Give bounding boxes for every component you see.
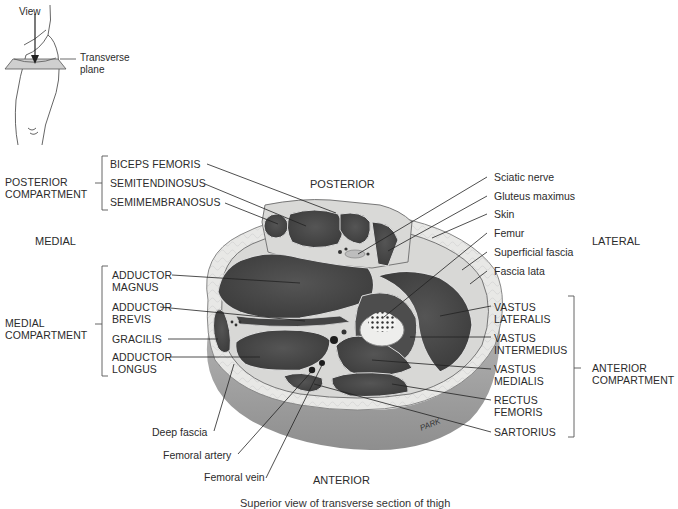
label-adductor-longus: ADDUCTOR LONGUS xyxy=(112,351,172,375)
orientation-anterior: ANTERIOR xyxy=(313,474,370,486)
label-adductor-brevis: ADDUCTOR BREVIS xyxy=(112,301,172,325)
adductor-longus-line2: LONGUS xyxy=(112,363,172,375)
label-rectus-femoris: RECTUS FEMORIS xyxy=(494,394,543,418)
figure-caption: Superior view of transverse section of t… xyxy=(240,497,450,509)
label-superficial-fascia: Superficial fascia xyxy=(494,246,573,258)
adductor-magnus-line2: MAGNUS xyxy=(112,281,172,293)
label-vastus-medialis: VASTUS MEDIALIS xyxy=(494,363,544,387)
vastus-medialis-line1: VASTUS xyxy=(494,363,544,375)
semimembranosus-muscle xyxy=(264,214,288,238)
vastus-intermedius-line2: INTERMEDIUS xyxy=(494,344,567,356)
adductor-magnus-line1: ADDUCTOR xyxy=(112,269,172,281)
rectus-femoris-line1: RECTUS xyxy=(494,394,543,406)
label-semimembranosus: SEMIMEMBRANOSUS xyxy=(110,196,221,208)
label-gracilis: GRACILIS xyxy=(112,333,162,345)
vastus-intermedius-line1: VASTUS xyxy=(494,332,567,344)
vastus-medialis-line2: MEDIALIS xyxy=(494,375,544,387)
medial-compartment-label: MEDIAL COMPARTMENT xyxy=(5,317,87,341)
label-femur: Femur xyxy=(494,227,524,239)
posterior-compartment-line1: POSTERIOR xyxy=(5,176,87,188)
anterior-compartment-line2: COMPARTMENT xyxy=(592,374,674,386)
medial-compartment-line2: COMPARTMENT xyxy=(5,329,87,341)
adductor-brevis-line1: ADDUCTOR xyxy=(112,301,172,313)
femoral-artery xyxy=(309,367,315,373)
label-vastus-lateralis: VASTUS LATERALIS xyxy=(494,301,551,325)
semitendinosus-muscle xyxy=(287,210,343,248)
medial-compartment-line1: MEDIAL xyxy=(5,317,87,329)
label-sciatic-nerve: Sciatic nerve xyxy=(494,171,554,183)
label-semitendinosus: SEMITENDINOSUS xyxy=(110,177,206,189)
orientation-medial: MEDIAL xyxy=(35,235,76,247)
label-adductor-magnus: ADDUCTOR MAGNUS xyxy=(112,269,172,293)
transverse-plane-label-line2: plane xyxy=(80,64,130,76)
label-sartorius: SARTORIUS xyxy=(494,426,556,438)
vastus-lateralis-line2: LATERALIS xyxy=(494,313,551,325)
anterior-compartment-line1: ANTERIOR xyxy=(592,362,674,374)
vastus-lateralis-line1: VASTUS xyxy=(494,301,551,313)
inset-leg-icon xyxy=(15,5,59,145)
label-vastus-intermedius: VASTUS INTERMEDIUS xyxy=(494,332,567,356)
rectus-femoris-line2: FEMORIS xyxy=(494,406,543,418)
label-gluteus-maximus: Gluteus maximus xyxy=(494,190,575,202)
transverse-plane-label: Transverse plane xyxy=(80,52,130,76)
transverse-plane-label-line1: Transverse xyxy=(80,52,130,64)
label-femoral-artery: Femoral artery xyxy=(163,449,231,461)
label-fascia-lata: Fascia lata xyxy=(494,265,545,277)
adductor-longus-line1: ADDUCTOR xyxy=(112,351,172,363)
orientation-lateral: LATERAL xyxy=(592,235,640,247)
posterior-compartment-label: POSTERIOR COMPARTMENT xyxy=(5,176,87,200)
adductor-brevis-line2: BREVIS xyxy=(112,313,172,325)
posterior-compartment-line2: COMPARTMENT xyxy=(5,188,87,200)
anterior-compartment-label: ANTERIOR COMPARTMENT xyxy=(592,362,674,386)
orientation-posterior: POSTERIOR xyxy=(310,178,375,190)
label-deep-fascia: Deep fascia xyxy=(152,426,207,438)
label-biceps-femoris: BICEPS FEMORIS xyxy=(110,158,201,170)
label-skin: Skin xyxy=(494,208,514,220)
label-femoral-vein: Femoral vein xyxy=(204,471,265,483)
view-label: View xyxy=(19,6,41,18)
